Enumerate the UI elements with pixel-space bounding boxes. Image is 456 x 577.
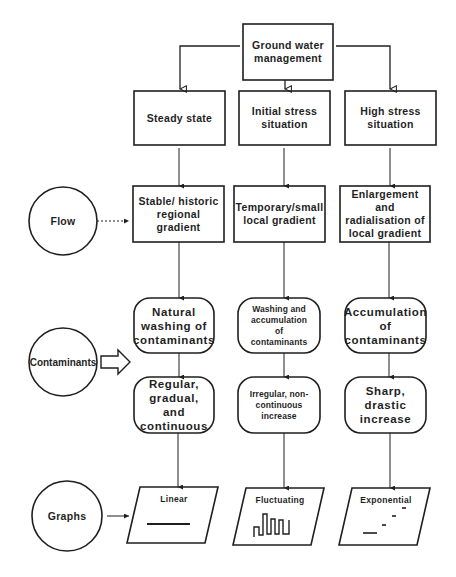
state-label-high: High stress situation [345, 91, 436, 145]
groundwater-management-flowchart: Ground water management Steady state Ini… [0, 0, 456, 577]
trend-label-sharp: Sharp, drastic increase [345, 377, 426, 433]
graph-label-fluctuating: Fluctuating [240, 494, 320, 508]
flow-label: Flow [29, 187, 97, 255]
connector-root-to-high [336, 46, 390, 89]
trend-label-irregular: Irregular, non- continuous increase [238, 377, 320, 433]
graph-label-linear: Linear [134, 493, 214, 507]
connector-root-to-steady [180, 46, 240, 89]
state-label-steady: Steady state [134, 91, 225, 145]
process-label-natural-washing: Natural washing of contaminants [134, 298, 214, 353]
graphs-label: Graphs [32, 481, 102, 551]
graph-label-exponential: Exponential [346, 494, 426, 508]
state-label-initial: Initial stress situation [239, 91, 330, 145]
process-label-washing-accumulation: Washing and accumulation of contaminants [238, 298, 320, 353]
fluctuating-wave-icon [254, 514, 289, 537]
exponential-steps-icon [363, 508, 406, 533]
gradient-label-stable: Stable/ historic regional gradient [133, 186, 224, 242]
trend-label-regular: Regular, gradual, and continuous [134, 377, 214, 433]
contaminants-hollow-arrow [101, 350, 130, 374]
process-label-accumulation: Accumulation of contaminants [345, 298, 426, 353]
root-label: Ground water management [243, 24, 333, 80]
contaminants-label: Contaminants [23, 328, 103, 396]
gradient-label-temporary: Temporary/small local gradient [234, 186, 325, 242]
gradient-label-enlargement: Enlargement and radialisation of local g… [340, 186, 430, 242]
